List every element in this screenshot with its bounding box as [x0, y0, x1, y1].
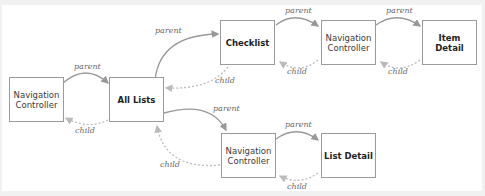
- child-label: child: [287, 67, 307, 76]
- parent-label: parent: [285, 120, 312, 129]
- checklist-node: Checklist: [220, 20, 275, 65]
- item-detail-node: ItemDetail: [422, 20, 477, 65]
- parent-label: parent: [155, 26, 182, 35]
- parent-arrow: [155, 34, 218, 80]
- parent-label: parent: [285, 6, 312, 15]
- child-label: child: [215, 76, 235, 85]
- child-label: child: [388, 67, 408, 76]
- list-detail-node: List Detail: [321, 133, 376, 178]
- navigation-controller-list: NavigationController: [221, 133, 276, 178]
- navigation-controller-checklist: NavigationController: [321, 20, 376, 65]
- child-arrow: [280, 173, 318, 180]
- child-label: child: [160, 160, 180, 169]
- parent-label: parent: [74, 62, 101, 71]
- parent-arrow: [276, 132, 318, 140]
- navigation-controller-root: NavigationController: [9, 77, 64, 122]
- child-label: child: [75, 126, 95, 135]
- parent-label: parent: [386, 6, 413, 15]
- parent-arrow: [276, 18, 318, 26]
- all-lists-node: All Lists: [109, 77, 164, 122]
- parent-label: parent: [213, 104, 240, 113]
- parent-arrow: [376, 18, 420, 26]
- child-arrow: [66, 118, 108, 125]
- parent-arrow: [63, 73, 108, 83]
- child-label: child: [287, 182, 307, 191]
